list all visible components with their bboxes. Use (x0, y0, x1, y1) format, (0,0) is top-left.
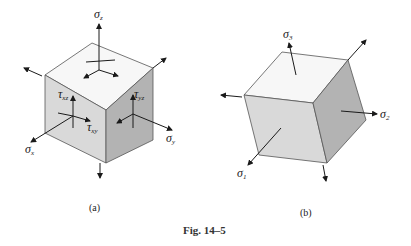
panel-b-label: (b) (300, 208, 312, 218)
label-tau-xz: τxz (58, 88, 68, 102)
label-sigma-2: σ2 (380, 108, 389, 122)
figure-caption: Fig. 14–5 (183, 225, 226, 236)
label-sigma-z: σz (94, 8, 103, 22)
label-tau-yz: τyz (134, 88, 144, 102)
label-sigma-y: σy (166, 132, 175, 146)
cube-b (244, 52, 366, 163)
label-tau-xy: τxy (87, 121, 98, 135)
stress-diagram-canvas (0, 0, 411, 246)
label-sigma-3: σ3 (283, 28, 292, 42)
label-sigma-x: σx (25, 143, 34, 157)
panel-a-label: (a) (89, 203, 100, 213)
label-sigma-1: σ1 (237, 167, 246, 181)
